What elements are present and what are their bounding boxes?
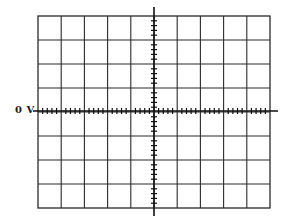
zero-volt-label: 0 V [15,104,35,116]
oscilloscope-graticule: 0 V [0,0,288,224]
graticule-grid [0,0,288,224]
center-axes [33,7,278,216]
